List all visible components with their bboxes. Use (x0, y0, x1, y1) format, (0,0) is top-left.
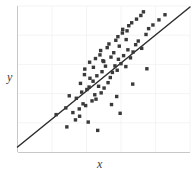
plot-canvas (0, 0, 194, 179)
data-point (106, 46, 109, 49)
data-point (116, 69, 119, 72)
data-point (117, 58, 120, 61)
data-point (64, 106, 67, 109)
data-point (100, 70, 103, 73)
data-point (98, 53, 101, 56)
data-point (124, 38, 127, 41)
data-point (129, 56, 132, 59)
data-point (85, 88, 88, 91)
data-point (142, 10, 145, 13)
data-point (90, 99, 93, 102)
data-point (80, 90, 83, 93)
data-point (54, 113, 57, 116)
data-point (102, 86, 105, 89)
scatter-plot-figure: y x (0, 0, 194, 179)
data-point (130, 21, 133, 24)
data-point (106, 81, 109, 84)
data-point (124, 65, 127, 68)
data-point (151, 23, 154, 26)
data-point (107, 42, 110, 45)
data-point (93, 93, 96, 96)
data-point (121, 28, 124, 31)
data-point (125, 29, 128, 32)
data-point (127, 24, 130, 27)
data-point (83, 73, 86, 76)
y-axis-label: y (7, 71, 12, 83)
data-point (79, 82, 82, 85)
data-point (92, 66, 95, 69)
data-point (94, 57, 97, 60)
data-point (104, 64, 107, 67)
data-point (119, 62, 122, 65)
data-point (78, 107, 81, 110)
data-point (139, 14, 142, 17)
data-point (112, 51, 115, 54)
data-point (122, 54, 125, 57)
data-point (83, 67, 86, 70)
data-point (84, 104, 87, 107)
data-point (114, 39, 117, 42)
data-point (118, 44, 121, 47)
data-point (94, 97, 97, 100)
data-point (99, 91, 102, 94)
data-point (137, 39, 140, 42)
x-axis-label: x (97, 158, 102, 170)
data-point (118, 112, 121, 115)
data-point (87, 120, 90, 123)
data-point (147, 27, 150, 30)
data-point (71, 111, 74, 114)
data-point (99, 49, 102, 52)
data-point (97, 85, 100, 88)
data-point (140, 47, 143, 50)
data-point (109, 55, 112, 58)
data-point (135, 17, 138, 20)
fit-line (18, 7, 191, 147)
data-point (95, 74, 98, 77)
data-point (75, 97, 78, 100)
data-point (144, 33, 147, 36)
data-point (88, 77, 91, 80)
data-point (163, 13, 166, 16)
data-point (116, 35, 119, 38)
data-point (91, 79, 94, 82)
data-point (121, 31, 124, 34)
data-point (109, 76, 112, 79)
data-point (101, 59, 104, 62)
data-point (131, 82, 134, 85)
data-point (126, 48, 129, 51)
data-point (78, 115, 81, 118)
data-point (157, 18, 160, 21)
data-point (88, 61, 91, 64)
data-point (111, 71, 114, 74)
regression-line (18, 7, 191, 147)
data-point (115, 95, 118, 98)
data-point (113, 64, 116, 67)
data-point (110, 103, 113, 106)
data-point (68, 94, 71, 97)
data-point (74, 118, 77, 121)
data-point (134, 43, 137, 46)
data-point (131, 50, 134, 53)
data-point (65, 125, 68, 128)
data-point (145, 67, 148, 70)
data-point (96, 129, 99, 132)
